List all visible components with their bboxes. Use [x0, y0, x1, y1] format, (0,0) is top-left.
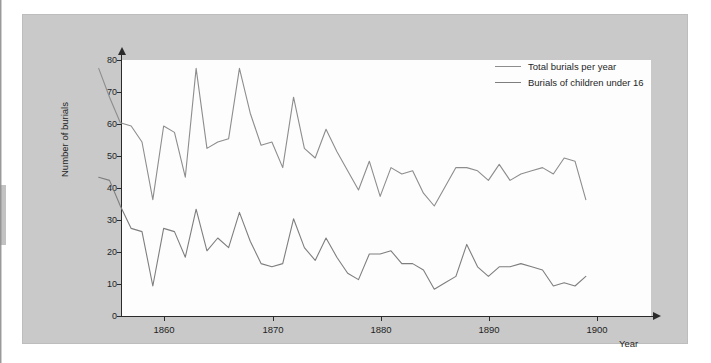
- x-tick-mark: [164, 316, 165, 321]
- y-tick-label-50: 50: [82, 152, 117, 161]
- legend-label-total: Total burials per year: [528, 61, 616, 72]
- y-tick-label-60: 60: [82, 120, 117, 129]
- y-tick-label-80: 80: [82, 56, 117, 65]
- y-tick-label-20: 20: [82, 248, 117, 257]
- legend-line-swatch-children: [495, 82, 521, 83]
- x-tick-label-1870: 1870: [250, 324, 296, 335]
- y-tick-label-0: 0: [82, 312, 117, 321]
- y-tick-mark: [117, 316, 122, 317]
- y-tick-label-10: 10: [82, 280, 117, 289]
- figure-panel: Number of burials Year 0 10 20 30 40 50 …: [22, 14, 688, 344]
- y-tick-mark: [117, 124, 122, 125]
- x-tick-mark: [273, 316, 274, 321]
- legend-item-total: Total burials per year: [495, 59, 665, 73]
- y-tick-mark: [117, 156, 122, 157]
- x-tick-label-1880: 1880: [358, 324, 404, 335]
- x-tick-label-1890: 1890: [466, 324, 512, 335]
- legend-label-children: Burials of children under 16: [528, 77, 644, 88]
- y-tick-mark: [117, 252, 122, 253]
- chart-legend: Total burials per year Burials of childr…: [495, 59, 665, 91]
- x-tick-mark: [597, 316, 598, 321]
- y-tick-mark: [117, 60, 122, 61]
- y-tick-mark: [117, 220, 122, 221]
- y-axis-arrow: [118, 47, 126, 55]
- x-tick-mark: [381, 316, 382, 321]
- x-axis-line: [121, 316, 654, 317]
- plot-area: [121, 60, 651, 317]
- figure-page: Number of burials Year 0 10 20 30 40 50 …: [0, 0, 711, 363]
- y-axis-line: [121, 54, 122, 317]
- x-tick-label-1860: 1860: [141, 324, 187, 335]
- scan-edge-artifact-secondary: [0, 185, 6, 245]
- y-tick-mark: [117, 188, 122, 189]
- y-tick-mark: [117, 92, 122, 93]
- legend-line-swatch-total: [495, 66, 521, 67]
- y-axis-title: Number of burials: [59, 80, 70, 200]
- y-tick-mark: [117, 284, 122, 285]
- y-tick-label-40: 40: [82, 184, 117, 193]
- x-axis-title: Year: [619, 338, 638, 349]
- x-tick-label-1900: 1900: [574, 324, 620, 335]
- y-tick-label-70: 70: [82, 88, 117, 97]
- x-axis-arrow: [653, 312, 661, 320]
- y-tick-label-30: 30: [82, 216, 117, 225]
- scan-edge-artifact: [0, 0, 4, 363]
- legend-item-children: Burials of children under 16: [495, 75, 665, 89]
- x-tick-mark: [489, 316, 490, 321]
